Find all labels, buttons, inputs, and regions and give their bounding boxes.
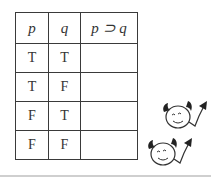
bottom-divider [0,175,211,177]
cell-p: F [16,102,49,131]
devil-face-arrow-icon [146,135,194,171]
table-row: F F [16,131,138,160]
header-implication: p ⊃ q [81,13,138,44]
devil-face-arrow-icon [161,98,209,134]
table-row: T F [16,73,138,102]
table-row: F T [16,102,138,131]
cell-p: T [16,44,49,73]
header-row: p q p ⊃ q [16,13,138,44]
cell-q: F [49,131,81,160]
cell-q: T [49,44,81,73]
header-p: p [16,13,49,44]
cell-implication [81,102,138,131]
cell-q: F [49,73,81,102]
cell-implication [81,131,138,160]
cell-p: T [16,73,49,102]
truth-table: p q p ⊃ q T T T F F T F F [15,12,138,160]
cell-implication [81,44,138,73]
cell-q: T [49,102,81,131]
cell-implication [81,73,138,102]
cell-p: F [16,131,49,160]
header-q: q [49,13,81,44]
table-row: T T [16,44,138,73]
